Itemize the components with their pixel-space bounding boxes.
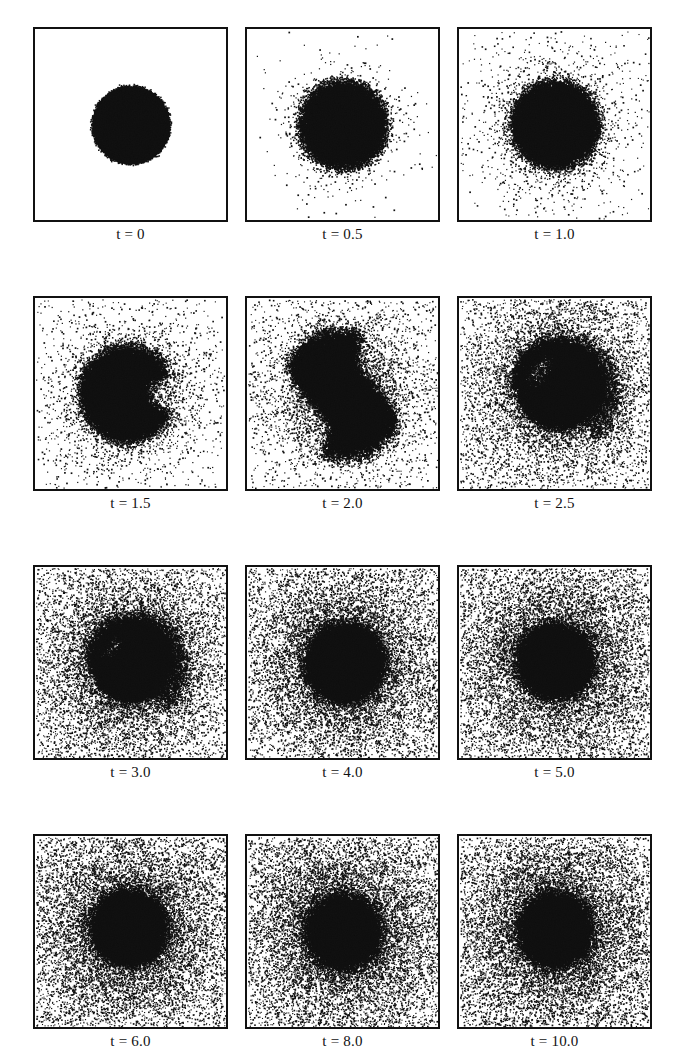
particle-scatter-canvas: [35, 836, 226, 1027]
panel-frame: [457, 296, 652, 491]
particle-scatter-canvas: [35, 29, 226, 220]
panel-time-label: t = 10.0: [457, 1033, 652, 1050]
panel-grid: t = 0t = 0.5t = 1.0t = 1.5t = 2.0t = 2.5…: [33, 27, 652, 1053]
simulation-panel: t = 0: [33, 27, 228, 261]
particle-scatter-canvas: [247, 298, 438, 489]
panel-time-label: t = 0: [33, 226, 228, 243]
particle-scatter-canvas: [459, 836, 650, 1027]
simulation-panel: t = 6.0: [33, 834, 228, 1053]
particle-scatter-canvas: [459, 567, 650, 758]
particle-scatter-canvas: [247, 29, 438, 220]
simulation-panel: t = 2.5: [457, 296, 652, 530]
particle-scatter-canvas: [459, 29, 650, 220]
simulation-panel: t = 2.0: [245, 296, 440, 530]
simulation-panel: t = 10.0: [457, 834, 652, 1053]
panel-time-label: t = 2.0: [245, 495, 440, 512]
panel-frame: [457, 27, 652, 222]
panel-time-label: t = 4.0: [245, 764, 440, 781]
panel-frame: [245, 27, 440, 222]
panel-time-label: t = 3.0: [33, 764, 228, 781]
panel-time-label: t = 8.0: [245, 1033, 440, 1050]
panel-time-label: t = 5.0: [457, 764, 652, 781]
panel-frame: [33, 296, 228, 491]
panel-frame: [245, 834, 440, 1029]
particle-scatter-canvas: [247, 567, 438, 758]
simulation-panel: t = 1.5: [33, 296, 228, 530]
simulation-panel: t = 8.0: [245, 834, 440, 1053]
particle-scatter-canvas: [35, 567, 226, 758]
panel-frame: [245, 565, 440, 760]
panel-time-label: t = 1.5: [33, 495, 228, 512]
panel-frame: [457, 565, 652, 760]
panel-time-label: t = 2.5: [457, 495, 652, 512]
simulation-panel: t = 0.5: [245, 27, 440, 261]
panel-frame: [245, 296, 440, 491]
panel-frame: [457, 834, 652, 1029]
simulation-panel: t = 5.0: [457, 565, 652, 799]
panel-frame: [33, 27, 228, 222]
particle-scatter-canvas: [247, 836, 438, 1027]
particle-simulation-figure: t = 0t = 0.5t = 1.0t = 1.5t = 2.0t = 2.5…: [0, 0, 681, 1053]
panel-time-label: t = 6.0: [33, 1033, 228, 1050]
particle-scatter-canvas: [459, 298, 650, 489]
simulation-panel: t = 1.0: [457, 27, 652, 261]
panel-frame: [33, 834, 228, 1029]
simulation-panel: t = 4.0: [245, 565, 440, 799]
panel-time-label: t = 0.5: [245, 226, 440, 243]
particle-scatter-canvas: [35, 298, 226, 489]
panel-frame: [33, 565, 228, 760]
panel-time-label: t = 1.0: [457, 226, 652, 243]
simulation-panel: t = 3.0: [33, 565, 228, 799]
